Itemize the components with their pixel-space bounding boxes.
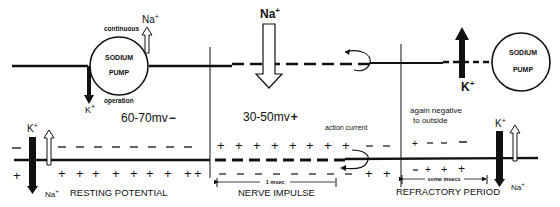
resting-inside-positive-charges: + + + + + + + + + + (13, 166, 202, 183)
refractory-inside-charges: + + + (413, 162, 465, 176)
svg-text:+: + (92, 166, 100, 181)
action-current-curl-top-icon (345, 49, 370, 71)
svg-text:some msecs: some msecs (427, 176, 460, 182)
svg-text:1 msec: 1 msec (266, 179, 285, 185)
bottom-membrane (14, 158, 538, 160)
sodium-pump-right: SODIUM PUMP (492, 33, 550, 91)
k-efflux-arrow-icon: K+ (455, 27, 475, 94)
svg-text:PUMP: PUMP (513, 66, 534, 73)
svg-text:K+: K+ (461, 79, 475, 94)
svg-text:Na+: Na+ (511, 181, 525, 192)
svg-text:SODIUM: SODIUM (509, 49, 537, 56)
na-efflux-arrow-icon: Na+ (142, 13, 159, 53)
svg-text:+: + (365, 166, 373, 181)
svg-text:+: + (76, 166, 84, 181)
svg-text:+: + (253, 138, 261, 153)
resting-outside-negative-charges (12, 147, 192, 148)
nerve-impulse-diagram: SODIUM PUMP continuous operation Na+ K+ … (0, 0, 560, 207)
svg-text:operation: operation (104, 97, 134, 105)
svg-text:+: + (441, 163, 447, 175)
svg-text:+: + (271, 138, 279, 153)
svg-text:+: + (235, 138, 243, 153)
svg-text:Na+: Na+ (45, 188, 59, 199)
svg-text:SODIUM: SODIUM (105, 54, 133, 61)
section-resting-potential: RESTING POTENTIAL (70, 187, 168, 198)
svg-text:PUMP: PUMP (109, 69, 130, 76)
svg-text:K+: K+ (495, 117, 506, 129)
msec-bracket: 1 msec (217, 178, 336, 187)
resting-voltage-label: 60-70mv− (121, 111, 176, 125)
svg-text:K+: K+ (85, 103, 95, 115)
na-influx-arrow-icon: Na+ (256, 6, 282, 88)
svg-text:+: + (112, 166, 120, 181)
action-current-label: action current (325, 124, 367, 131)
svg-text:+: + (342, 138, 350, 153)
svg-text:+: + (146, 166, 154, 181)
svg-text:+: + (58, 166, 66, 181)
sodium-pump-left: SODIUM PUMP continuous operation (90, 25, 148, 105)
some-msecs-bracket: some msecs (402, 175, 487, 184)
svg-text:Na+: Na+ (260, 6, 280, 21)
top-membrane (12, 62, 492, 66)
transition-charges: + + (365, 146, 391, 181)
to-outside-label: to outside (413, 116, 448, 125)
svg-text:+: + (184, 166, 192, 181)
section-refractory-period: REFRACTORY PERIOD (396, 186, 500, 197)
svg-text:+: + (289, 138, 297, 153)
svg-text:+: + (13, 168, 21, 183)
svg-text:+: + (324, 138, 332, 153)
again-negative-label: again negative (410, 106, 463, 115)
impulse-outside-positive-charges: + + + + + + + + (217, 138, 350, 153)
diagram-canvas: SODIUM PUMP continuous operation Na+ K+ … (0, 0, 560, 207)
svg-text:+: + (130, 166, 138, 181)
svg-text:Na+: Na+ (142, 13, 159, 25)
svg-text:+: + (412, 138, 418, 149)
svg-text:+: + (383, 166, 391, 181)
svg-text:+: + (425, 164, 431, 175)
svg-text:+: + (306, 138, 314, 153)
bottom-right-channel: K+ Na+ (494, 117, 525, 192)
section-nerve-impulse: NERVE IMPULSE (238, 187, 315, 198)
svg-text:K+: K+ (27, 122, 38, 134)
refractory-outside-charges: + (412, 138, 467, 149)
svg-text:+: + (164, 166, 172, 181)
svg-text:+: + (458, 162, 465, 176)
svg-text:+: + (217, 138, 225, 153)
svg-text:continuous: continuous (104, 25, 139, 32)
impulse-voltage-label: 30-50mv+ (243, 110, 298, 124)
svg-text:+: + (194, 166, 202, 181)
